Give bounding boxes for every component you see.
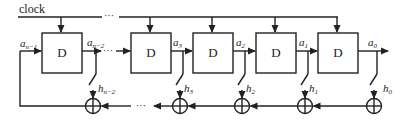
register-label: D: [57, 45, 66, 60]
clock-ellipsis: ···: [104, 10, 114, 21]
xor-adder-2: [173, 99, 188, 114]
svg-text:h0: h0: [383, 82, 393, 96]
data-ellipsis: ···: [103, 45, 113, 56]
svg-text:h2: h2: [246, 82, 256, 96]
xor-adder-1: [86, 99, 101, 114]
input-label: an−1: [20, 37, 37, 51]
register-label: D: [333, 45, 342, 60]
tap-3: h2: [238, 51, 256, 98]
lfsr-diagram: clock ··· D D D D D an−1 ··· an−2 a3 a2 …: [0, 0, 407, 121]
tap-5: h0: [370, 51, 393, 98]
svg-text:h3: h3: [184, 82, 194, 96]
clock-label: clock: [19, 2, 45, 16]
svg-text:hn−2: hn−2: [98, 82, 116, 96]
output-label-5: a0: [368, 36, 378, 50]
register-2: D: [131, 33, 171, 73]
register-5: D: [318, 33, 358, 73]
output-label-4: a1: [299, 36, 308, 50]
register-label: D: [146, 45, 155, 60]
xor-adder-4: [298, 99, 313, 114]
xor-adder-5: [367, 99, 382, 114]
tap-4: h1: [301, 51, 318, 98]
register-3: D: [193, 33, 233, 73]
register-4: D: [256, 33, 296, 73]
register-1: D: [42, 33, 82, 73]
register-label: D: [208, 45, 217, 60]
register-label: D: [271, 45, 280, 60]
tap-1: hn−2: [89, 51, 116, 98]
xor-adder-3: [235, 99, 250, 114]
tap-2: h3: [176, 51, 194, 98]
output-label-2: a3: [173, 36, 183, 50]
svg-text:h1: h1: [309, 82, 318, 96]
output-label-1: an−2: [87, 36, 105, 50]
feedback-ellipsis: ···: [136, 100, 146, 111]
output-label-3: a2: [236, 36, 246, 50]
